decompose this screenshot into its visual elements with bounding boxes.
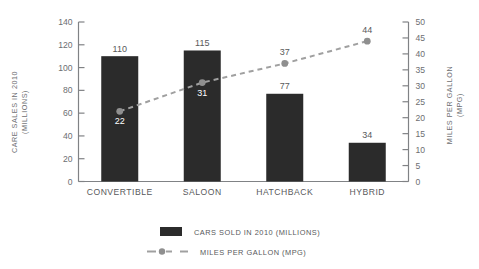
left-axis-title: CARE SALES IN 2010 (MILLIONS) bbox=[10, 71, 29, 153]
category-label: SALOON bbox=[183, 187, 222, 197]
right-tick-label: 5 bbox=[416, 161, 421, 171]
right-axis-ticks: 05101520253035404550 bbox=[403, 17, 426, 187]
left-tick-label: 60 bbox=[63, 108, 73, 118]
left-axis-title-line1: CARE SALES IN 2010 bbox=[10, 71, 19, 153]
mpg-value-label: 44 bbox=[362, 25, 372, 35]
right-tick-label: 30 bbox=[416, 81, 426, 91]
legend-marker-circle-icon bbox=[159, 248, 165, 254]
category-label: HYBRID bbox=[350, 187, 385, 197]
mpg-data-point-marker bbox=[116, 108, 123, 115]
bar-series bbox=[101, 50, 386, 181]
legend-item-cars-sold[interactable]: CARS SOLD IN 2010 (MILLIONS) bbox=[160, 227, 320, 237]
right-tick-label: 25 bbox=[416, 97, 426, 107]
right-tick-label: 0 bbox=[416, 177, 421, 187]
right-tick-label: 50 bbox=[416, 17, 426, 27]
bar-value-label: 115 bbox=[195, 38, 209, 48]
mpg-data-point-marker bbox=[281, 60, 288, 67]
mpg-line-series bbox=[116, 38, 370, 115]
chart-legend: CARS SOLD IN 2010 (MILLIONS) MILES PER G… bbox=[147, 227, 320, 257]
bar-value-label: 110 bbox=[113, 44, 127, 54]
left-tick-label: 100 bbox=[58, 63, 73, 73]
bar-value-label: 77 bbox=[280, 81, 290, 91]
mpg-value-labels: 22313744 bbox=[115, 25, 373, 126]
left-axis-ticks: 020406080100120140 bbox=[58, 17, 84, 187]
right-tick-label: 40 bbox=[416, 49, 426, 59]
bar bbox=[184, 50, 221, 181]
right-tick-label: 45 bbox=[416, 33, 426, 43]
category-label: CONVERTIBLE bbox=[87, 187, 153, 197]
mpg-data-point-marker bbox=[364, 38, 371, 45]
right-tick-label: 10 bbox=[416, 145, 426, 155]
right-axis-title: MILES PER GALLON (MPG) bbox=[445, 66, 464, 144]
bar-value-label: 34 bbox=[362, 130, 372, 140]
mpg-value-label: 22 bbox=[115, 116, 125, 126]
left-tick-label: 0 bbox=[68, 177, 73, 187]
right-axis-title-line2: (MPG) bbox=[455, 93, 464, 117]
right-axis-title-line1: MILES PER GALLON bbox=[445, 66, 454, 144]
legend-swatch-bar bbox=[160, 227, 182, 236]
left-axis-title-line2: (MILLIONS) bbox=[20, 90, 29, 134]
right-tick-label: 20 bbox=[416, 113, 426, 123]
legend-item-mpg[interactable]: MILES PER GALLON (MPG) bbox=[147, 248, 306, 257]
mpg-value-label: 31 bbox=[197, 88, 207, 98]
left-tick-label: 140 bbox=[58, 17, 73, 27]
mpg-dashed-line bbox=[120, 41, 368, 111]
chart-container: CARE SALES IN 2010 (MILLIONS) MILES PER … bbox=[0, 0, 479, 269]
left-tick-label: 20 bbox=[63, 154, 73, 164]
dual-axis-bar-line-chart: CARE SALES IN 2010 (MILLIONS) MILES PER … bbox=[0, 0, 479, 269]
left-tick-label: 80 bbox=[63, 85, 73, 95]
mpg-data-point-marker bbox=[199, 79, 206, 86]
legend-label-cars-sold: CARS SOLD IN 2010 (MILLIONS) bbox=[194, 228, 320, 237]
bar bbox=[349, 143, 386, 182]
category-label: HATCHBACK bbox=[256, 187, 313, 197]
right-tick-label: 35 bbox=[416, 65, 426, 75]
left-tick-label: 120 bbox=[58, 40, 73, 50]
bar-value-labels: 1101157734 bbox=[113, 38, 373, 140]
left-tick-label: 40 bbox=[63, 131, 73, 141]
right-tick-label: 15 bbox=[416, 129, 426, 139]
category-labels: CONVERTIBLESALOONHATCHBACKHYBRID bbox=[87, 187, 385, 197]
legend-label-mpg: MILES PER GALLON (MPG) bbox=[200, 248, 306, 257]
mpg-value-label: 37 bbox=[280, 47, 290, 57]
bar bbox=[266, 94, 303, 182]
